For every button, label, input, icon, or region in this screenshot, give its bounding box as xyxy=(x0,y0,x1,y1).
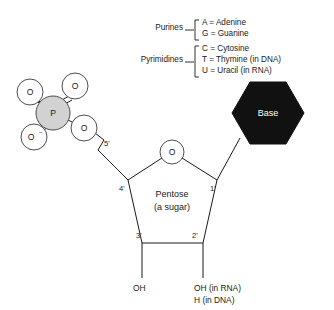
legend-entry-uracil: U = Uracil (in RNA) xyxy=(202,66,272,75)
nucleotide-diagram: Purines A = Adenine G = Guanine Pyrimidi… xyxy=(0,0,334,310)
nucleotide-structure-svg: Purines A = Adenine G = Guanine Pyrimidi… xyxy=(0,0,334,310)
ring-oxygen-label: O xyxy=(169,147,176,157)
legend-category-purines: Purines xyxy=(155,23,183,32)
legend-entry-guanine: G = Guanine xyxy=(202,29,249,38)
legend-group-purines: Purines A = Adenine G = Guanine xyxy=(155,18,249,40)
carbon-label-2prime: 2' xyxy=(192,231,198,240)
bond-ring-o-to-c1 xyxy=(182,158,217,180)
carbon-label-3prime: 3' xyxy=(136,231,142,240)
legend-entry-thymine: T = Thymine (in DNA) xyxy=(202,55,281,64)
terminal-2prime-dna: H (in DNA) xyxy=(194,295,235,305)
oxygen-upper-right-label: O xyxy=(72,81,79,91)
legend-bracket-purines xyxy=(195,20,199,40)
sugar-name-line1: Pentose xyxy=(155,189,188,199)
phosphorus-label: P xyxy=(50,108,56,118)
bond-c1-to-base xyxy=(217,138,240,180)
bond-c4-to-ring-o xyxy=(128,158,162,180)
legend-category-pyrimidines: Pyrimidines xyxy=(141,55,183,64)
terminal-2prime-rna: OH (in RNA) xyxy=(194,283,241,293)
carbon-label-1prime: 1' xyxy=(210,184,216,193)
base-label: Base xyxy=(258,108,279,118)
legend-group-pyrimidines: Pyrimidines C = Cytosine T = Thymine (in… xyxy=(141,44,282,77)
phosphate-group: O O O − O P xyxy=(17,73,97,150)
carbon-label-4prime: 4' xyxy=(119,184,125,193)
terminal-groups: OH OH (in RNA) H (in DNA) xyxy=(133,283,241,305)
oxygen-anion-charge: − xyxy=(39,129,43,135)
legend-bracket-pyrimidines xyxy=(195,46,199,77)
legend-entry-cytosine: C = Cytosine xyxy=(202,44,250,53)
bond-o-to-c5 xyxy=(95,133,128,180)
sugar-name-line2: (a sugar) xyxy=(154,202,190,212)
oxygen-bridging-label: O xyxy=(81,123,88,133)
pentose-sugar: O Pentose (a sugar) 5' 4' 3' 2' 1' xyxy=(104,139,216,240)
oxygen-anion-label: O xyxy=(28,132,35,142)
carbon-label-5prime: 5' xyxy=(104,139,110,148)
oxygen-upper-left-label: O xyxy=(27,87,34,97)
terminal-3prime-oh: OH xyxy=(133,283,146,293)
nitrogenous-base: Base xyxy=(232,82,304,144)
legend-entry-adenine: A = Adenine xyxy=(202,18,246,27)
